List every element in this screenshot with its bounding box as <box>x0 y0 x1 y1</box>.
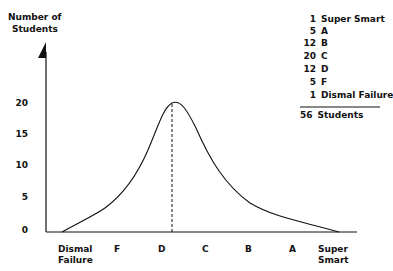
distribution-curve <box>62 102 339 232</box>
y-tick-20: 20 <box>8 98 28 108</box>
y-axis-label-line2: Students <box>12 24 58 35</box>
legend-row-b: 12B <box>300 38 328 48</box>
legend-row-a: 5A <box>300 26 328 36</box>
y-tick-0: 0 <box>8 225 28 235</box>
x-label-c: C <box>202 244 209 255</box>
y-tick-10: 10 <box>8 160 28 170</box>
x-label-b: B <box>245 244 252 255</box>
y-axis-arrow-icon <box>38 42 46 58</box>
legend-row-super-smart: 1Super Smart <box>300 14 385 24</box>
x-label-dismal-failure: Dismal Failure <box>58 244 93 266</box>
y-axis-label-line1: Number of <box>8 12 62 23</box>
legend-row-d: 12D <box>300 64 328 74</box>
x-label-f: F <box>114 244 120 255</box>
y-tick-15: 15 <box>8 129 28 139</box>
x-label-a: A <box>289 244 296 255</box>
legend-row-c: 20C <box>300 51 328 61</box>
legend-total: 56Students <box>300 110 363 120</box>
x-label-d: D <box>158 244 165 255</box>
legend-row-f: 5F <box>300 77 327 87</box>
x-label-super-smart: Super Smart <box>318 244 349 266</box>
y-tick-5: 5 <box>8 192 28 202</box>
legend-row-dismal-failure: 1Dismal Failure <box>300 90 393 100</box>
